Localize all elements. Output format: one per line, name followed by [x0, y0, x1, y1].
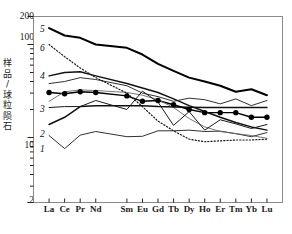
curve-label-1: 1: [40, 144, 45, 154]
curve-label-4: 4: [40, 71, 45, 81]
series-3-point-Er: [218, 110, 223, 115]
series-3-point-La: [46, 90, 51, 95]
series-3-point-Nd: [93, 90, 98, 95]
series-3-point-Pr: [77, 89, 82, 94]
series-line-5: [49, 28, 267, 95]
series-3-point-Dy: [186, 107, 191, 112]
series-3-point-Ho: [202, 110, 207, 115]
curve-label-6: 6: [40, 43, 45, 53]
series-3-point-Eu: [140, 99, 145, 104]
x-tick-label-Nd: Nd: [85, 204, 107, 214]
series-3-point-Tb: [171, 102, 176, 107]
series-3-point-Tm: [233, 110, 238, 115]
ree-chondrite-diagram: 样品/球粒陨石 200 100 10 2 LaCePrNdSmEuGdTbDyH…: [0, 0, 292, 234]
plot-canvas: [0, 0, 292, 234]
series-3-point-Lu: [264, 115, 269, 120]
series-line-1: [49, 130, 267, 148]
curve-label-5: 5: [40, 24, 45, 34]
series-3-point-Yb: [249, 115, 254, 120]
series-3-point-Gd: [155, 98, 160, 103]
series-3-point-Ce: [62, 91, 67, 96]
series-3-point-Sm: [124, 93, 129, 98]
curve-label-2: 2: [40, 129, 45, 139]
curve-label-3: 3: [40, 104, 45, 114]
x-tick-label-Lu: Lu: [256, 204, 278, 214]
